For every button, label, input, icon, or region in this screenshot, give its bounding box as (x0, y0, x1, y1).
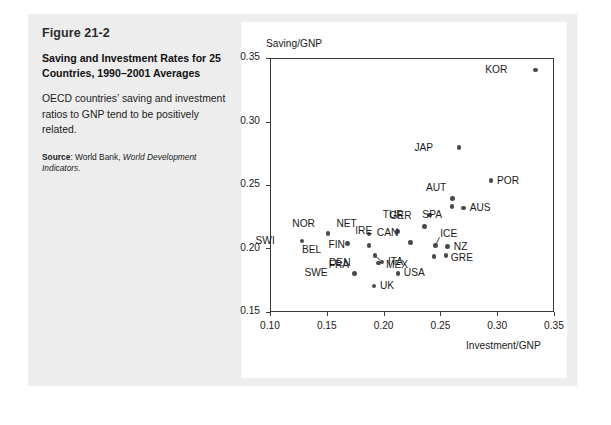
source-text: World Bank, (75, 152, 123, 162)
figure-title: Saving and Investment Rates for 25 Count… (42, 51, 227, 81)
chart-card (241, 22, 567, 378)
figure-number: Figure 21-2 (42, 26, 227, 41)
figure-source: Source: World Bank, World Development In… (42, 152, 227, 175)
caption-block: Figure 21-2 Saving and Investment Rates … (42, 26, 227, 175)
figure-description: OECD countries’ saving and investment ra… (42, 91, 227, 138)
source-label: Source (42, 152, 70, 162)
